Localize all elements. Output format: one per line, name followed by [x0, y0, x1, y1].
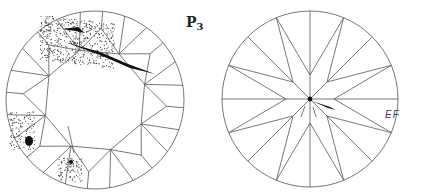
stipple-dot — [52, 53, 53, 54]
star-facet-edge — [101, 28, 119, 54]
stipple-dot — [113, 44, 114, 45]
stipple-dot — [55, 44, 56, 45]
stipple-dot — [60, 168, 61, 169]
stipple-dot — [102, 49, 103, 50]
upper-girdle-edge — [167, 106, 184, 107]
stipple-dot — [63, 158, 64, 159]
stipple-dot — [84, 63, 85, 64]
upper-girdle-edge — [141, 155, 152, 168]
stipple-dot — [75, 63, 76, 64]
stipple-dot — [113, 40, 114, 41]
stipple-dot — [11, 114, 12, 115]
stipple-dot — [92, 46, 93, 47]
stipple-dot — [70, 158, 71, 159]
stipple-dot — [47, 30, 48, 31]
stipple-dot — [60, 180, 61, 181]
stipple-dot — [105, 59, 106, 60]
stipple-dot — [65, 49, 66, 50]
stipple-dot — [39, 36, 40, 37]
stipple-dot — [11, 119, 12, 120]
stipple-dot — [49, 16, 50, 17]
stipple-dot — [63, 54, 64, 55]
stipple-dot — [45, 42, 46, 43]
stipple-dot — [67, 162, 68, 163]
stipple-dot — [87, 37, 88, 38]
stipple-dot — [99, 34, 100, 35]
stipple-dot — [41, 50, 42, 51]
stipple-dot — [111, 46, 112, 47]
stipple-dot — [66, 36, 67, 37]
stipple-dot — [111, 32, 112, 33]
stipple-dot — [47, 42, 48, 43]
stipple-dot — [19, 138, 20, 139]
stipple-dot — [29, 114, 30, 115]
stipple-dot — [78, 38, 79, 39]
stipple-dot — [48, 23, 49, 24]
lower-girdle-edge — [276, 18, 310, 75]
stipple-dot — [40, 59, 41, 60]
stipple-dot — [33, 132, 34, 133]
stipple-dot — [43, 50, 44, 51]
stipple-dot — [89, 43, 90, 44]
stipple-dot — [48, 25, 49, 26]
stipple-dot — [107, 48, 108, 49]
stipple-dot — [42, 40, 43, 41]
stipple-dot — [69, 166, 70, 167]
stipple-dot — [72, 60, 73, 61]
stipple-dot — [69, 164, 70, 165]
stipple-dot — [70, 41, 71, 42]
stipple-dot — [12, 112, 13, 113]
stipple-dot — [109, 33, 110, 34]
lower-girdle-edge — [276, 18, 293, 82]
girdle-outline — [6, 11, 184, 189]
stipple-dot — [80, 44, 81, 45]
stipple-dot — [72, 41, 73, 42]
stipple-dot — [112, 36, 113, 37]
stipple-dot — [11, 135, 12, 136]
stipple-dot — [107, 59, 108, 60]
stipple-dot — [99, 63, 100, 64]
stipple-dot — [46, 60, 47, 61]
stipple-dot — [74, 26, 75, 27]
stipple-dot — [53, 30, 54, 31]
stipple-dot — [16, 133, 17, 134]
stipple-dot — [108, 47, 109, 48]
stipple-dot — [67, 159, 68, 160]
stipple-dot — [63, 59, 64, 60]
stipple-dot — [61, 179, 62, 180]
stipple-dot — [70, 164, 71, 165]
stipple-dot — [87, 38, 88, 39]
plot-label: P3 — [186, 14, 204, 32]
stipple-dot — [63, 31, 64, 32]
stipple-dot — [76, 37, 77, 38]
stipple-dot — [18, 123, 19, 124]
stipple-dot — [71, 23, 72, 24]
stipple-dot — [79, 42, 80, 43]
stipple-dot — [67, 170, 68, 171]
stipple-dot — [45, 55, 46, 56]
stipple-dot — [16, 116, 17, 117]
stipple-dot — [90, 25, 91, 26]
stipple-dot — [112, 28, 113, 29]
stipple-dot — [106, 28, 107, 29]
stipple-dot — [47, 50, 48, 51]
stipple-dot — [26, 133, 27, 134]
stipple-dot — [81, 165, 82, 166]
stipple-dot — [46, 31, 47, 32]
stipple-dot — [76, 33, 77, 34]
stipple-dot — [73, 26, 74, 27]
stipple-dot — [73, 52, 74, 53]
stipple-dot — [74, 58, 75, 59]
stipple-dot — [47, 16, 48, 17]
stipple-dot — [42, 32, 43, 33]
stipple-dot — [75, 181, 76, 182]
stipple-dot — [104, 48, 105, 49]
stipple-dot — [13, 144, 14, 145]
stipple-dot — [42, 42, 43, 43]
stipple-dot — [108, 66, 109, 67]
stipple-dot — [48, 30, 49, 31]
stipple-dot — [89, 24, 90, 25]
bezel-edge — [7, 115, 45, 116]
stipple-dot — [61, 23, 62, 24]
stipple-dot — [86, 23, 87, 24]
